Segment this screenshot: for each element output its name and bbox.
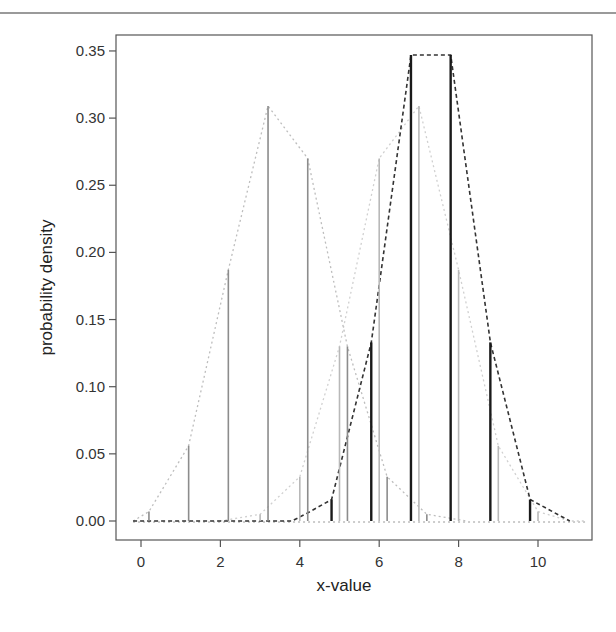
x-tick-label: 8: [454, 553, 462, 570]
y-tick-label: 0.20: [76, 243, 105, 260]
x-axis-title: x-value: [317, 576, 372, 595]
y-tick-label: 0.35: [76, 42, 105, 59]
y-axis: 0.000.050.100.150.200.250.300.35: [76, 42, 116, 529]
series-layer: [133, 55, 586, 522]
x-tick-label: 2: [216, 553, 224, 570]
series-connector-line: [220, 106, 585, 521]
plot-frame: [116, 35, 592, 540]
series-connector-line: [133, 106, 466, 521]
x-axis: 0246810: [137, 540, 547, 570]
y-tick-label: 0.15: [76, 311, 105, 328]
y-tick-label: 0.05: [76, 445, 105, 462]
y-tick-label: 0.25: [76, 176, 105, 193]
probability-chart: 0.000.050.100.150.200.250.300.35 0246810…: [0, 0, 616, 632]
y-tick-label: 0.10: [76, 378, 105, 395]
y-axis-title: probability density: [37, 219, 56, 356]
y-tick-label: 0.30: [76, 109, 105, 126]
x-tick-label: 4: [296, 553, 304, 570]
x-tick-label: 0: [137, 553, 145, 570]
x-tick-label: 6: [375, 553, 383, 570]
y-tick-label: 0.00: [76, 512, 105, 529]
x-tick-label: 10: [530, 553, 547, 570]
